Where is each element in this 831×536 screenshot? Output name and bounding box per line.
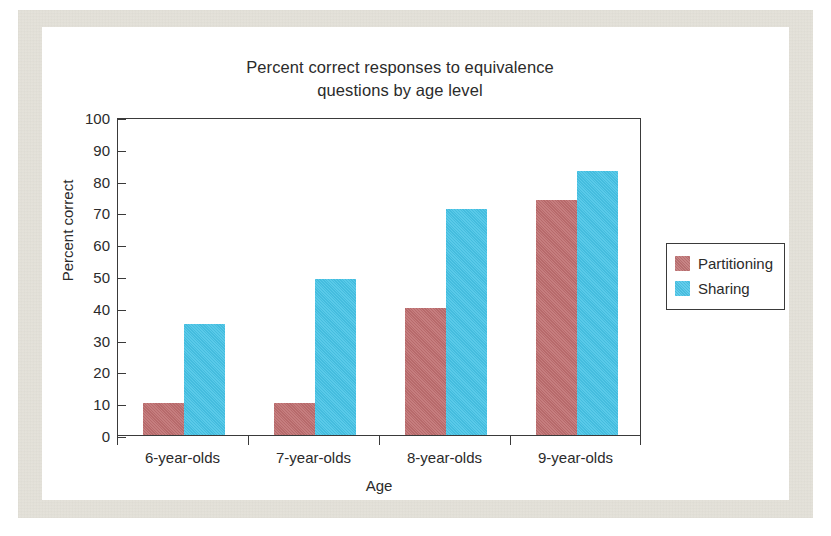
chart-title-line-2: questions by age level xyxy=(120,79,680,102)
legend-item-partitioning: Partitioning xyxy=(675,251,773,276)
bar-sharing-9-year-olds xyxy=(577,171,618,435)
y-axis-tick-label: 90 xyxy=(76,141,110,158)
bar-sharing-6-year-olds xyxy=(184,324,225,435)
chart-legend: PartitioningSharing xyxy=(666,243,785,310)
x-axis-tick-label: 8-year-olds xyxy=(379,449,510,473)
plot-area xyxy=(117,118,641,436)
y-axis-labels: 0102030405060708090100 xyxy=(70,118,110,436)
bar-sharing-7-year-olds xyxy=(315,279,356,435)
bar-partitioning-6-year-olds xyxy=(143,403,184,435)
y-axis-tick-label: 80 xyxy=(76,173,110,190)
y-axis-tick-label: 70 xyxy=(76,205,110,222)
bar-partitioning-8-year-olds xyxy=(405,308,446,435)
y-axis-tick-label: 10 xyxy=(76,396,110,413)
legend-swatch-sharing xyxy=(675,281,690,296)
bar-group xyxy=(249,119,380,435)
x-axis-tick-label: 6-year-olds xyxy=(117,449,248,473)
bar-partitioning-9-year-olds xyxy=(536,200,577,435)
bar-group xyxy=(118,119,249,435)
x-axis-tick-label: 7-year-olds xyxy=(248,449,379,473)
figure-container: Percent correct responses to equivalence… xyxy=(0,0,831,536)
y-axis-tick-label: 50 xyxy=(76,269,110,286)
bar-sharing-8-year-olds xyxy=(446,209,487,435)
bar-group xyxy=(380,119,511,435)
legend-item-sharing: Sharing xyxy=(675,276,773,301)
bar-group xyxy=(511,119,642,435)
x-axis-tick xyxy=(117,436,118,445)
x-axis-tick xyxy=(379,436,380,445)
legend-label: Sharing xyxy=(698,280,750,297)
y-axis-tick-label: 30 xyxy=(76,332,110,349)
x-axis-ticks xyxy=(117,436,641,446)
bar-partitioning-7-year-olds xyxy=(274,403,315,435)
legend-label: Partitioning xyxy=(698,255,773,272)
legend-swatch-partitioning xyxy=(675,256,690,271)
y-axis-tick-label: 60 xyxy=(76,237,110,254)
x-axis-tick-label: 9-year-olds xyxy=(510,449,641,473)
chart-title: Percent correct responses to equivalence… xyxy=(120,56,680,102)
chart-title-line-1: Percent correct responses to equivalence xyxy=(246,58,554,76)
y-axis-tick-label: 20 xyxy=(76,364,110,381)
x-axis-tick xyxy=(510,436,511,445)
y-axis-tick-label: 100 xyxy=(76,110,110,127)
x-axis-tick xyxy=(248,436,249,445)
y-axis-tick-label: 0 xyxy=(76,428,110,445)
y-axis-tick-label: 40 xyxy=(76,300,110,317)
x-axis-tick xyxy=(640,436,641,445)
x-axis-labels: 6-year-olds7-year-olds8-year-olds9-year-… xyxy=(117,449,641,473)
x-axis-title: Age xyxy=(117,477,641,494)
